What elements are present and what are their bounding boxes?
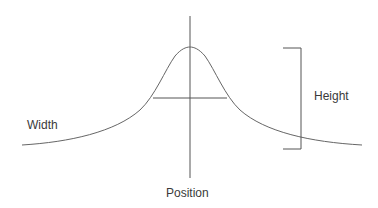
width-label: Width (27, 118, 58, 132)
position-label: Position (166, 186, 209, 200)
peak-diagram (0, 0, 378, 208)
height-label: Height (314, 89, 349, 103)
height-bracket (283, 48, 301, 149)
peak-curve (22, 47, 362, 145)
